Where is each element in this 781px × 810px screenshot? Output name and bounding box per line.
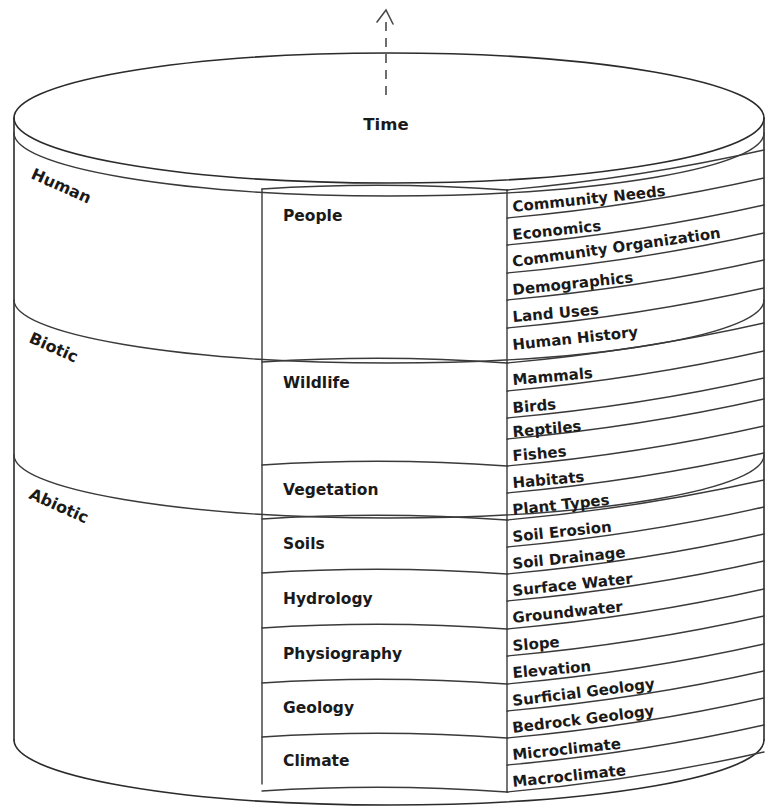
up-arrow-icon: [377, 10, 393, 24]
time-axis-label: Time: [363, 115, 408, 134]
category-label-wildlife[interactable]: Wildlife: [283, 374, 350, 392]
category-sep-2: [262, 461, 507, 466]
subcategory-label-4[interactable]: Land Uses: [512, 301, 600, 326]
category-sep-8: [262, 787, 507, 792]
category-label-people[interactable]: People: [283, 207, 342, 225]
category-sep-7: [262, 733, 507, 738]
category-sep-5: [262, 624, 507, 629]
cylinder-bottom-arc: [14, 740, 764, 805]
subcategory-label-9[interactable]: Fishes: [512, 442, 568, 465]
domain-labels: Human Biotic Abiotic: [26, 164, 94, 527]
category-sep-4: [262, 569, 507, 574]
slice-arc-0: [507, 150, 764, 190]
domain-sep-biotic-abiotic: [14, 455, 764, 518]
cylinder-diagram: Time Human Biotic Abiotic: [0, 0, 781, 810]
subcategory-label-14[interactable]: Surface Water: [512, 569, 635, 600]
subcategory-label-13[interactable]: Soil Drainage: [512, 543, 627, 573]
subcategory-label-10[interactable]: Habitats: [512, 468, 585, 492]
subcategory-label-3[interactable]: Demographics: [512, 268, 634, 299]
subcategory-label-7[interactable]: Birds: [512, 395, 557, 417]
subcategory-label-8[interactable]: Reptiles: [512, 417, 582, 441]
category-label-hydrology[interactable]: Hydrology: [283, 590, 373, 608]
category-label-geology[interactable]: Geology: [283, 699, 354, 717]
subcategory-label-21[interactable]: Macroclimate: [512, 761, 627, 791]
time-axis-group: Time: [363, 10, 408, 134]
subcategory-labels: Community Needs Economics Community Orga…: [511, 182, 722, 791]
subcategory-label-6[interactable]: Mammals: [512, 364, 594, 389]
domain-label-human: Human: [28, 164, 94, 207]
category-sep-0: [262, 185, 507, 190]
category-label-vegetation[interactable]: Vegetation: [283, 481, 379, 499]
category-label-soils[interactable]: Soils: [283, 535, 325, 553]
category-label-climate[interactable]: Climate: [283, 752, 350, 770]
diagram-canvas: Time Human Biotic Abiotic: [0, 0, 781, 810]
category-labels: People Wildlife Vegetation Soils Hydrolo…: [283, 207, 402, 770]
subcategory-label-20[interactable]: Microclimate: [512, 735, 622, 764]
category-sep-6: [262, 679, 507, 684]
category-label-physiography[interactable]: Physiography: [283, 645, 402, 663]
subcategory-label-17[interactable]: Elevation: [512, 657, 592, 682]
